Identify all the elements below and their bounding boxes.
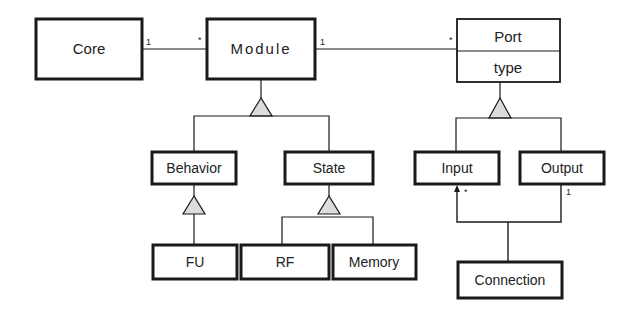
class-memory: Memory (333, 245, 416, 279)
multiplicity-port-many: * (449, 35, 453, 45)
class-module: Module (207, 19, 315, 79)
generalization-triangle-module-icon (250, 98, 272, 116)
association-connection-input-output (457, 184, 561, 222)
class-name-connection: Connection (475, 272, 546, 288)
generalization-triangle-port-icon (489, 98, 511, 118)
multiplicity-input-many: * (464, 187, 468, 197)
multiplicity-module-many: * (198, 35, 202, 45)
class-name-memory: Memory (349, 254, 400, 270)
class-name-core: Core (73, 40, 106, 57)
generalization-triangle-state-icon (318, 196, 340, 214)
gen-branch-module (194, 116, 329, 152)
class-name-port: Port (494, 28, 522, 45)
class-name-rf: RF (276, 254, 295, 270)
class-state: State (285, 152, 373, 184)
gen-branch-port (456, 118, 561, 152)
class-name-output: Output (541, 160, 583, 176)
multiplicity-output-1: 1 (566, 187, 571, 197)
generalization-triangle-behavior-icon (183, 196, 205, 214)
class-name-state: State (313, 160, 346, 176)
class-name-module: Module (230, 40, 291, 57)
class-port: Port type (457, 19, 560, 82)
class-core: Core (36, 19, 142, 79)
class-output: Output (520, 152, 604, 184)
class-behavior: Behavior (152, 152, 236, 184)
class-name-behavior: Behavior (166, 160, 222, 176)
class-input: Input (415, 152, 499, 184)
uml-class-diagram: 1 * 1 * * 1 Core Module Port type Behavi… (0, 0, 635, 311)
class-connection: Connection (458, 262, 562, 298)
class-name-input: Input (441, 160, 472, 176)
class-name-fu: FU (186, 254, 205, 270)
class-fu: FU (153, 245, 237, 279)
multiplicity-module-port-1: 1 (320, 37, 325, 47)
class-rf: RF (241, 245, 329, 279)
navigability-arrow-input-icon (454, 185, 460, 192)
gen-branch-state (282, 217, 373, 245)
multiplicity-core-1: 1 (146, 37, 151, 47)
class-attribute-type: type (494, 59, 522, 76)
